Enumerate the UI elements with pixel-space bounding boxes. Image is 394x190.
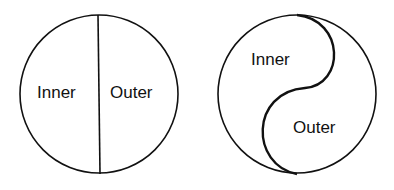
right-inner-label: Inner — [251, 50, 290, 69]
right-circle-outline — [218, 15, 376, 173]
right-outer-label: Outer — [293, 118, 336, 137]
left-inner-label: Inner — [37, 83, 76, 102]
yin-yang-diagram: Inner Outer — [218, 15, 376, 174]
left-outer-label: Outer — [110, 83, 153, 102]
diagram-canvas: Inner Outer Inner Outer — [0, 0, 394, 190]
s-curve-divider — [263, 15, 334, 174]
split-circle-diagram: Inner Outer — [20, 15, 178, 174]
left-divider-line — [98, 15, 100, 174]
